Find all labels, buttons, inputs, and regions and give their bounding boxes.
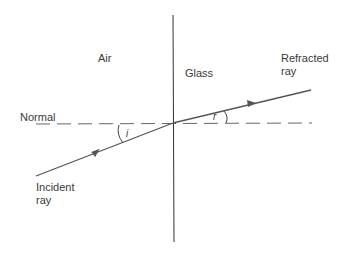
angle-r-label: r	[213, 110, 216, 123]
angle-r-arc	[224, 111, 227, 123]
boundary-line	[173, 15, 174, 242]
incident-arrow-icon	[91, 149, 102, 158]
incident-label-line2: ray	[36, 194, 51, 207]
incident-label-line1: Incident	[36, 181, 75, 194]
incident-ray	[36, 123, 173, 176]
refraction-diagram	[0, 0, 345, 260]
glass-label: Glass	[185, 67, 213, 80]
normal-label: Normal	[20, 111, 55, 124]
refracted-label-line2: ray	[281, 65, 296, 78]
refracted-arrow-icon	[247, 100, 256, 107]
refracted-label-line1: Refracted	[281, 52, 329, 65]
angle-i-arc	[118, 125, 123, 143]
angle-i-label: i	[126, 127, 128, 140]
air-label: Air	[98, 52, 111, 65]
refracted-ray	[173, 90, 311, 123]
